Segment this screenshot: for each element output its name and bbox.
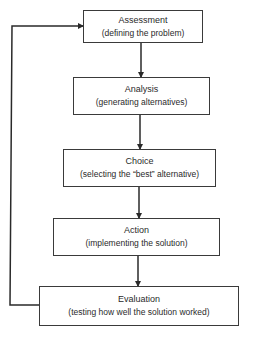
- step-assessment: Assessment (defining the problem): [83, 10, 203, 43]
- step-description: (implementing the solution): [85, 237, 187, 250]
- step-description: (selecting the “best” alternative): [80, 168, 199, 181]
- step-evaluation: Evaluation (testing how well the solutio…: [39, 286, 239, 326]
- step-analysis: Analysis (generating alternatives): [73, 77, 210, 115]
- step-choice: Choice (selecting the “best” alternative…: [63, 149, 216, 187]
- step-title: Assessment: [118, 14, 167, 27]
- step-description: (testing how well the solution worked): [68, 306, 209, 319]
- step-title: Analysis: [125, 83, 159, 96]
- step-description: (generating alternatives): [96, 96, 188, 109]
- step-description: (defining the problem): [102, 27, 185, 40]
- step-title: Evaluation: [118, 293, 160, 306]
- step-title: Action: [124, 224, 149, 237]
- step-title: Choice: [125, 155, 153, 168]
- step-action: Action (implementing the solution): [53, 218, 220, 256]
